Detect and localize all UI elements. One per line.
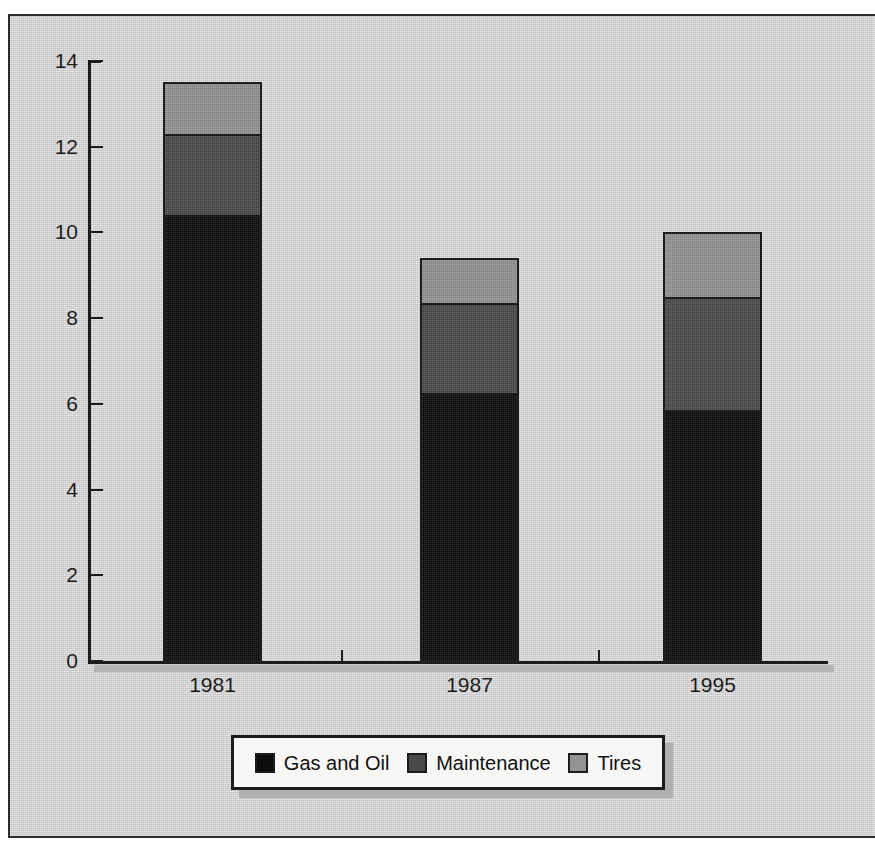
bar-segment-maintenance[interactable] [422, 303, 517, 393]
bar-1995[interactable] [663, 232, 762, 661]
y-axis-tick [91, 146, 103, 148]
chart-legend: Gas and OilMaintenanceTires [231, 735, 665, 790]
y-axis-line [88, 60, 91, 663]
plot-area: 14121086420 198119871995 [0, 0, 875, 848]
legend-swatch-icon [255, 753, 275, 773]
y-axis-tick [91, 317, 103, 319]
y-axis-tick-label: 2 [30, 564, 78, 585]
bar-segment-maintenance[interactable] [665, 297, 760, 411]
legend-label: Gas and Oil [284, 753, 390, 773]
y-axis-tick-label: 8 [30, 307, 78, 328]
segment-texture [165, 136, 260, 215]
legend-item[interactable]: Gas and Oil [255, 753, 390, 773]
y-axis-tick [91, 231, 103, 233]
x-axis-line [88, 661, 828, 664]
bar-segment-gas-and-oil[interactable] [165, 215, 260, 661]
legend-item[interactable]: Tires [568, 753, 641, 773]
y-axis-tick-label: 4 [30, 479, 78, 500]
x-axis-shadow [94, 665, 834, 672]
x-axis-tick-label: 1987 [420, 674, 520, 695]
segment-texture [665, 299, 760, 411]
y-axis-tick-label: 0 [30, 650, 78, 671]
y-axis-tick [91, 403, 103, 405]
y-axis-tick [91, 489, 103, 491]
y-axis-tick [91, 60, 103, 62]
bar-1981[interactable] [163, 82, 262, 661]
segment-texture [422, 393, 517, 661]
y-axis-tick-label: 10 [30, 221, 78, 242]
segment-texture [165, 84, 260, 133]
y-axis-tick-label: 14 [30, 50, 78, 71]
x-axis-tick-label: 1981 [163, 674, 263, 695]
y-axis-tick-label: 12 [30, 136, 78, 157]
bar-segment-tires[interactable] [165, 82, 260, 133]
segment-texture [665, 410, 760, 661]
legend-label: Tires [597, 753, 641, 773]
legend-swatch-icon [407, 753, 427, 773]
bar-segment-tires[interactable] [665, 232, 760, 296]
x-axis-tick [598, 650, 600, 661]
chart-figure: 14121086420 198119871995 Gas and OilMain… [0, 0, 875, 848]
segment-texture [665, 234, 760, 296]
legend-item[interactable]: Maintenance [407, 753, 551, 773]
bar-segment-gas-and-oil[interactable] [665, 410, 760, 661]
legend-label: Maintenance [436, 753, 551, 773]
bar-segment-gas-and-oil[interactable] [422, 393, 517, 661]
x-axis-tick [341, 650, 343, 661]
bar-segment-tires[interactable] [422, 258, 517, 303]
y-axis-tick [91, 574, 103, 576]
segment-texture [422, 305, 517, 393]
x-axis-tick-label: 1995 [663, 674, 763, 695]
bar-1987[interactable] [420, 258, 519, 661]
legend-swatch-icon [568, 753, 588, 773]
bar-segment-maintenance[interactable] [165, 134, 260, 215]
y-axis-tick-label: 6 [30, 393, 78, 414]
segment-texture [165, 215, 260, 661]
segment-texture [422, 260, 517, 303]
